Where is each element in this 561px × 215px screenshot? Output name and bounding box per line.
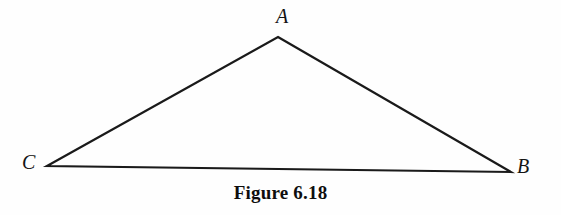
triangle-abc xyxy=(47,37,511,172)
figure-caption: Figure 6.18 xyxy=(0,182,561,204)
figure-container: A C B Figure 6.18 xyxy=(0,0,561,215)
vertex-label-c: C xyxy=(22,152,35,172)
triangle-edges xyxy=(47,37,511,172)
vertex-label-b: B xyxy=(517,156,529,176)
vertex-label-a: A xyxy=(276,6,288,26)
